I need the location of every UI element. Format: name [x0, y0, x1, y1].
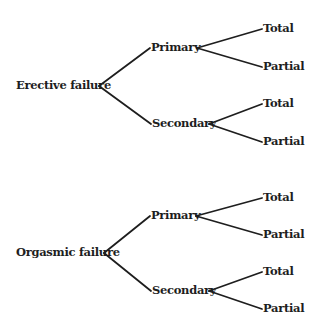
leaf-node-erective-primary-total: Total — [263, 23, 294, 35]
edge-branch-to-leaf-0-1-1 — [209, 124, 262, 142]
leaf-node-orgasmic-secondary-total: Total — [263, 266, 294, 278]
classification-tree-diagram: Erective failure Primary Total Partial S… — [0, 0, 316, 333]
branch-node-orgasmic-primary: Primary — [151, 210, 200, 222]
branch-node-erective-primary: Primary — [151, 42, 200, 54]
edge-branch-to-leaf-1-0-1 — [196, 216, 262, 235]
edge-branch-to-leaf-1-1-1 — [209, 291, 262, 309]
branch-node-orgasmic-secondary: Secondary — [152, 285, 216, 297]
root-node-orgasmic-failure: Orgasmic failure — [16, 247, 120, 259]
leaf-node-erective-secondary-partial: Partial — [263, 136, 304, 148]
leaf-node-erective-secondary-total: Total — [263, 98, 294, 110]
root-node-erective-failure: Erective failure — [16, 80, 111, 92]
edge-branch-to-leaf-1-0-0 — [196, 198, 262, 216]
leaf-node-orgasmic-secondary-partial: Partial — [263, 303, 304, 315]
edge-branch-to-leaf-0-0-0 — [197, 29, 262, 48]
leaf-node-erective-primary-partial: Partial — [263, 61, 304, 73]
edge-branch-to-leaf-0-0-1 — [197, 48, 262, 67]
leaf-node-orgasmic-primary-total: Total — [263, 192, 294, 204]
edge-branch-to-leaf-0-1-0 — [209, 104, 262, 124]
branch-node-erective-secondary: Secondary — [152, 118, 216, 130]
leaf-node-orgasmic-primary-partial: Partial — [263, 229, 304, 241]
edge-branch-to-leaf-1-1-0 — [209, 272, 262, 291]
